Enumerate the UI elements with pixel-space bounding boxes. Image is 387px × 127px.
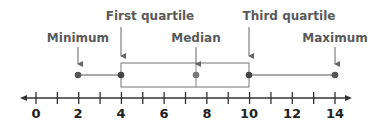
right-arrow-icon	[345, 95, 352, 101]
number-line	[20, 92, 352, 104]
tick-label: 4	[116, 106, 125, 121]
median-label: Median	[171, 31, 220, 45]
left-arrow-icon	[20, 95, 27, 101]
maximum-label: Maximum	[302, 31, 367, 45]
tick-label: 12	[283, 106, 301, 121]
tick-label: 10	[240, 106, 258, 121]
maximum-point	[332, 72, 339, 79]
q3-point	[246, 72, 253, 79]
q1-point	[118, 72, 125, 79]
box-plot-diagram: 0 2 4 6 8 10 12 14 Minimum First quartil…	[0, 0, 387, 127]
minimum-point	[75, 72, 82, 79]
tick-label: 14	[326, 106, 344, 121]
third-quartile-label: Third quartile	[243, 9, 336, 23]
minimum-label: Minimum	[47, 31, 109, 45]
tick-label: 8	[202, 106, 211, 121]
iqr-box	[121, 63, 249, 87]
tick-label: 2	[73, 106, 82, 121]
axis-tick-labels: 0 2 4 6 8 10 12 14	[31, 106, 344, 121]
tick-label: 6	[159, 106, 168, 121]
first-quartile-label: First quartile	[106, 9, 195, 23]
tick-label: 0	[31, 106, 40, 121]
median-point	[193, 72, 200, 79]
